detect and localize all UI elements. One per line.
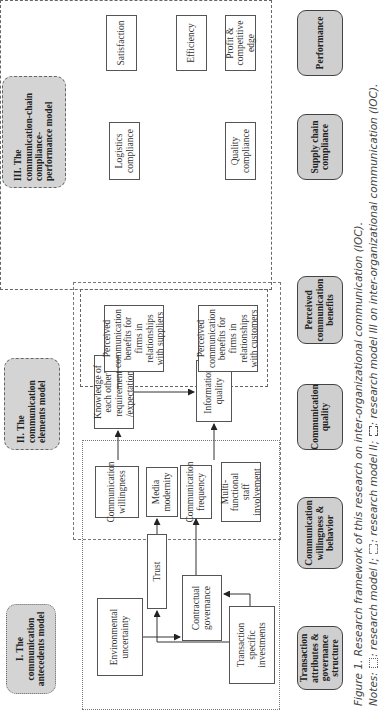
label-multi-functional-staff: Multi-functional staff involvement [220,465,263,519]
header-model-1: I. The communication antecedents model [6,604,56,694]
header-model-2-label: II. The communication elements model [16,365,47,443]
caption-text: Figure 1. Research framework of this res… [352,222,364,706]
box-environmental-uncertainty: Environmental uncertainty [97,598,143,676]
chain-label-6: Performance [315,17,325,70]
label-benefits-suppliers: Perceived communication benefits for fir… [102,308,166,369]
chain-label-5: Supply chain compliance [310,117,331,177]
figure-notes: Notes: : research model I; : research mo… [367,84,379,706]
label-media-modernity: Media modernity [151,470,172,514]
box-communication-frequency: Communication frequency [180,465,212,519]
figure-caption: Figure 1. Research framework of this res… [352,222,364,706]
label-transaction-specific-investments: Transaction specific investments [236,609,268,681]
note-model-3: : research model III on inter-organizati… [367,84,379,426]
chain-label-4: Perceived communication benefits [304,279,335,342]
box-contractual-governance: Contractual governance [182,575,222,641]
box-benefits-customers: Perceived communication benefits for fir… [198,305,258,372]
box-transaction-specific-investments: Transaction specific investments [229,606,275,684]
label-environmental-uncertainty: Environmental uncertainty [109,601,130,673]
label-benefits-customers: Perceived communication benefits for fir… [196,308,260,369]
swatch-model-1 [369,658,378,668]
chain-box-1: Transaction attributes & governance stru… [297,626,343,690]
note-model-2: : research model II; [367,441,379,543]
box-benefits-suppliers: Perceived communication benefits for fir… [104,305,164,372]
box-logistics-compliance: Logistics compliance [109,122,140,180]
label-profit-competitive-edge: Profit & competitive edge [225,18,257,68]
label-efficiency: Efficiency [186,23,197,62]
chain-label-3: Communication quality [310,384,331,449]
swatch-model-3 [369,426,378,436]
swatch-model-2 [369,544,378,554]
box-multi-functional-staff: Multi-functional staff involvement [221,462,261,522]
header-model-2: II. The communication elements model [4,358,60,450]
chain-box-5: Supply chain compliance [297,114,343,180]
label-contractual-governance: Contractual governance [191,578,212,638]
box-media-modernity: Media modernity [146,467,178,517]
research-framework-figure: I. The communication antecedents model I… [0,0,383,712]
box-profit-competitive-edge: Profit & competitive edge [225,15,256,71]
box-efficiency: Efficiency [176,15,207,71]
label-communication-frequency: Communication frequency [185,461,206,522]
chain-label-1: Transaction attributes & governance stru… [299,629,341,687]
chain-box-2: Communication willingness & behavior [297,497,343,569]
box-quality-compliance: Quality compliance [225,122,256,180]
note-model-1: : research model I; [367,558,379,657]
chain-label-2: Communication willingness & behavior [304,500,335,566]
label-trust: Trust [152,562,163,582]
label-quality-compliance: Quality compliance [230,125,251,177]
header-model-1-label: I. The communication antecedents model [15,611,46,687]
label-satisfaction: Satisfaction [116,21,127,66]
label-communication-willingness: Communication willingness [106,461,127,522]
box-communication-willingness: Communication willingness [95,466,139,518]
notes-prefix: Notes: [367,672,379,706]
chain-box-6: Performance [297,10,343,76]
box-trust: Trust [147,534,167,609]
chain-box-4: Perceived communication benefits [297,276,343,344]
chain-box-3: Communication quality [297,384,343,450]
label-logistics-compliance: Logistics compliance [114,125,135,177]
box-satisfaction: Satisfaction [106,15,137,71]
